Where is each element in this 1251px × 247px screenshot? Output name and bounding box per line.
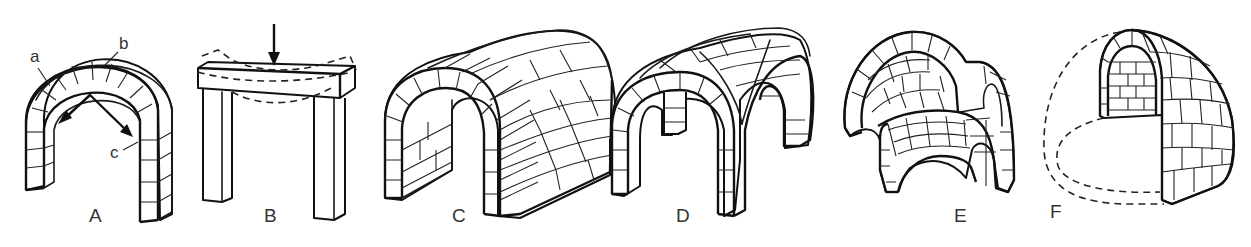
callout-b: b: [119, 35, 128, 52]
panel-d-groin-vault: [612, 28, 813, 216]
panel-c-barrel-vault: [385, 30, 615, 218]
panel-label-d: D: [676, 206, 690, 225]
panel-label-b: B: [264, 206, 277, 225]
panel-label-c: C: [452, 206, 466, 225]
panel-a-arch: [26, 52, 172, 222]
panel-label-f: F: [1050, 202, 1062, 221]
panel-b-post-lintel: [198, 24, 356, 220]
panel-f-dome: [1044, 30, 1234, 204]
callout-a: a: [30, 48, 39, 65]
panel-label-a: A: [89, 206, 102, 225]
panel-label-e: E: [954, 206, 967, 225]
diagram-canvas: [0, 0, 1251, 247]
panel-e-pendentive: [844, 32, 1014, 192]
callout-c: c: [110, 144, 119, 161]
